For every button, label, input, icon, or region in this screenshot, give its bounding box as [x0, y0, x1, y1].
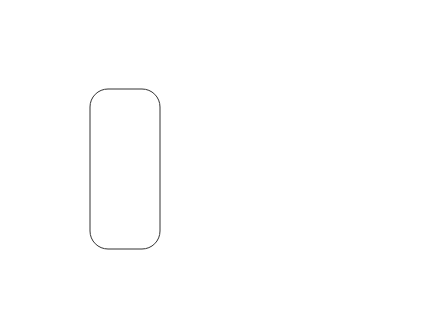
hepatocyte-cell-border	[90, 89, 160, 249]
diagram-canvas	[0, 0, 448, 319]
